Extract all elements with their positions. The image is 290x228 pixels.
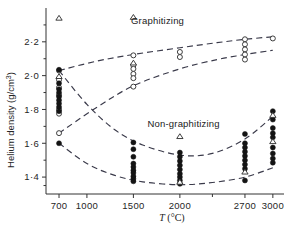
data-point-filled-circle xyxy=(270,145,275,150)
data-point-filled-circle xyxy=(131,179,136,184)
helium-density-scatter-chart: 2·22·01·81·61·470010001500200027003000 G… xyxy=(0,0,290,228)
y-tick-label: 2·0 xyxy=(24,70,39,81)
trend-curves-layer xyxy=(59,37,273,185)
data-point-filled-circle xyxy=(270,160,275,165)
annotations-layer: GraphitizingNon-graphitizing xyxy=(131,15,220,129)
data-point-open-triangle xyxy=(177,134,183,139)
x-tick-label: 700 xyxy=(51,200,68,211)
data-point-filled-circle xyxy=(270,151,275,156)
data-point-open-circle xyxy=(242,57,247,62)
data-point-open-circle xyxy=(242,42,247,47)
data-point-filled-circle xyxy=(131,140,136,145)
trend-curve xyxy=(59,143,273,184)
data-point-open-circle xyxy=(177,55,182,60)
series-annotation-label: Graphitizing xyxy=(131,15,184,26)
x-tick-label: 2700 xyxy=(234,200,256,211)
x-tick-label: 1500 xyxy=(122,200,144,211)
data-point-filled-circle xyxy=(131,154,136,159)
data-point-open-triangle xyxy=(56,15,62,20)
data-point-open-circle xyxy=(131,76,136,81)
y-tick-label: 1·8 xyxy=(24,104,39,115)
data-point-open-triangle xyxy=(270,113,276,118)
data-point-open-triangle xyxy=(56,74,62,79)
data-point-open-circle xyxy=(177,49,182,54)
data-point-filled-circle xyxy=(57,109,62,114)
data-point-filled-circle xyxy=(57,67,62,72)
data-point-filled-circle xyxy=(57,141,62,146)
x-axis-title: T (°C) xyxy=(159,212,184,224)
data-point-open-triangle xyxy=(130,60,136,65)
data-point-open-triangle xyxy=(270,139,276,144)
data-point-filled-circle xyxy=(270,126,275,131)
data-point-filled-circle xyxy=(131,147,136,152)
y-tick-label: 1·6 xyxy=(24,138,39,149)
y-tick-label: 2·2 xyxy=(24,36,39,47)
data-points-layer xyxy=(56,15,276,187)
data-point-open-circle xyxy=(242,37,247,42)
axes-layer xyxy=(42,8,284,198)
data-point-filled-circle xyxy=(242,178,247,183)
x-tick-label: 2000 xyxy=(169,200,191,211)
series-annotation-label: Non-graphitizing xyxy=(147,118,219,129)
data-point-open-circle xyxy=(242,47,247,52)
data-point-open-circle xyxy=(131,53,136,58)
data-point-filled-circle xyxy=(270,117,275,122)
data-point-open-circle xyxy=(131,66,136,71)
data-point-filled-circle xyxy=(242,131,247,136)
data-point-open-circle xyxy=(270,36,275,41)
y-tick-label: 1·4 xyxy=(24,171,39,182)
y-axis-title-text: Helium density (g/cm xyxy=(5,79,16,168)
chart-container: 2·22·01·81·61·470010001500200027003000 G… xyxy=(0,0,290,228)
data-point-open-circle xyxy=(57,131,62,136)
trend-curve xyxy=(59,71,273,156)
data-point-open-circle xyxy=(242,52,247,57)
y-axis-title: Helium density (g/cm3) xyxy=(5,72,16,168)
data-point-filled-circle xyxy=(57,81,62,86)
x-tick-label: 3000 xyxy=(262,200,284,211)
data-point-open-circle xyxy=(131,84,136,89)
trend-curve xyxy=(59,37,273,71)
x-tick-label: 1000 xyxy=(76,200,98,211)
